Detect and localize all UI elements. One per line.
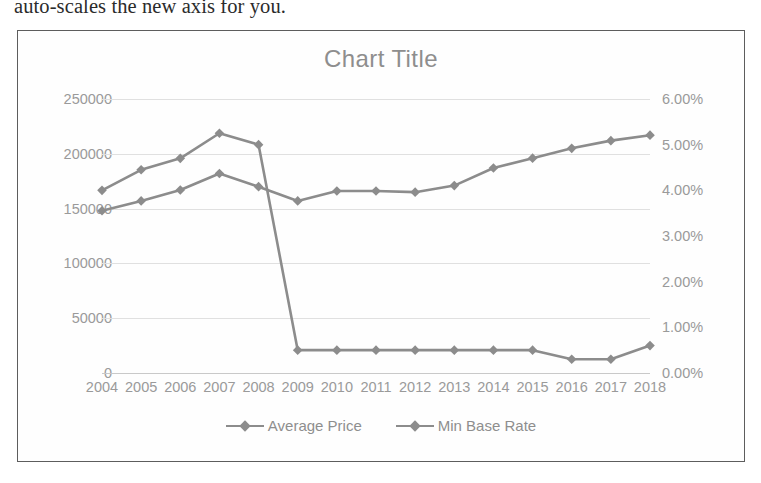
- diamond-marker-icon: [396, 419, 434, 433]
- left-value-axis: 050000100000150000200000250000: [26, 99, 112, 373]
- right-axis-tick-label: 1.00%: [662, 320, 703, 335]
- right-axis-tick-label: 3.00%: [662, 229, 703, 244]
- chart-title: Chart Title: [18, 45, 744, 73]
- legend-entry[interactable]: Average Price: [226, 417, 362, 434]
- plot-area: [102, 99, 650, 373]
- page-body-text: auto-scales the new axis for you.: [14, 0, 484, 19]
- category-tick-label: 2014: [477, 380, 509, 395]
- series-layer: [102, 99, 650, 373]
- data-point-marker: [332, 345, 342, 355]
- data-point-marker: [254, 140, 264, 150]
- data-point-marker: [254, 182, 264, 192]
- data-point-marker: [567, 144, 577, 154]
- data-point-marker: [371, 186, 381, 196]
- data-point-marker: [371, 345, 381, 355]
- data-point-marker: [489, 163, 499, 173]
- data-point-marker: [293, 345, 303, 355]
- data-point-marker: [215, 169, 225, 179]
- category-tick-label: 2010: [321, 380, 353, 395]
- data-point-marker: [410, 187, 420, 197]
- category-tick-label: 2007: [203, 380, 235, 395]
- category-axis: 2004200520062007200820092010201120122013…: [102, 380, 650, 402]
- data-point-marker: [175, 185, 185, 195]
- category-tick-label: 2006: [164, 380, 196, 395]
- data-point-marker: [410, 345, 420, 355]
- data-point-marker: [136, 165, 146, 175]
- data-point-marker: [449, 181, 459, 191]
- right-axis-tick-label: 4.00%: [662, 183, 703, 198]
- legend-entry[interactable]: Min Base Rate: [396, 417, 536, 434]
- right-axis-tick-label: 6.00%: [662, 92, 703, 107]
- data-point-marker: [645, 130, 655, 140]
- data-point-marker: [528, 345, 538, 355]
- legend-label: Min Base Rate: [438, 417, 536, 434]
- data-point-marker: [606, 354, 616, 364]
- category-tick-label: 2012: [399, 380, 431, 395]
- category-tick-label: 2008: [242, 380, 274, 395]
- data-point-marker: [136, 196, 146, 206]
- category-tick-label: 2011: [360, 380, 391, 395]
- right-axis-tick-label: 5.00%: [662, 138, 703, 153]
- diamond-marker-icon: [226, 419, 264, 433]
- data-point-marker: [606, 136, 616, 146]
- right-axis-tick-label: 2.00%: [662, 275, 703, 290]
- category-tick-label: 2013: [438, 380, 470, 395]
- data-point-marker: [489, 345, 499, 355]
- legend-label: Average Price: [268, 417, 362, 434]
- category-tick-label: 2009: [282, 380, 314, 395]
- chart-legend: Average PriceMin Base Rate: [18, 417, 744, 434]
- series-line: [102, 135, 650, 211]
- category-tick-label: 2018: [634, 380, 666, 395]
- data-point-marker: [332, 186, 342, 196]
- chart-container: Chart Title 0500001000001500002000002500…: [17, 30, 745, 462]
- data-point-marker: [567, 354, 577, 364]
- data-point-marker: [449, 345, 459, 355]
- right-value-axis: 0.00%1.00%2.00%3.00%4.00%5.00%6.00%: [662, 99, 742, 373]
- series-line: [102, 133, 650, 359]
- series-2: [97, 128, 655, 364]
- category-tick-label: 2005: [125, 380, 157, 395]
- category-tick-label: 2017: [595, 380, 627, 395]
- category-tick-label: 2004: [86, 380, 118, 395]
- right-axis-tick-label: 0.00%: [662, 366, 703, 381]
- data-point-marker: [528, 153, 538, 163]
- axis-baseline: [102, 373, 650, 374]
- data-point-marker: [645, 341, 655, 351]
- data-point-marker: [293, 196, 303, 206]
- series-1: [97, 130, 655, 215]
- category-tick-label: 2015: [516, 380, 548, 395]
- category-tick-label: 2016: [556, 380, 588, 395]
